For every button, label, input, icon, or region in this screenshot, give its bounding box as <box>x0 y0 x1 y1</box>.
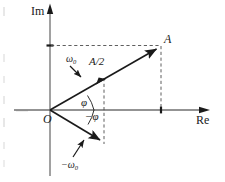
phasor-diagram-figure: Im Re O A A/2 ω0 −ω0 φ −φ <box>0 0 225 182</box>
omega-zero-symbol: ω <box>66 53 73 64</box>
half-vector-label: A/2 <box>89 56 104 67</box>
angle-phi-label: φ <box>81 97 87 108</box>
real-axis-label: Re <box>196 114 209 126</box>
omega-zero-subscript: 0 <box>73 58 76 65</box>
vector-a-label: A <box>164 33 171 45</box>
angle-arc-phi <box>88 96 95 111</box>
phasor-diagram-canvas <box>0 0 225 182</box>
minus-omega-zero-label: −ω0 <box>61 160 78 171</box>
omega-zero-label: ω0 <box>66 54 76 65</box>
minus-omega-zero-symbol: −ω <box>61 159 75 170</box>
scan-artifacts <box>3 7 28 167</box>
minus-omega-zero-subscript: 0 <box>75 164 78 171</box>
imaginary-axis-label: Im <box>31 5 44 17</box>
origin-label: O <box>43 113 52 125</box>
omega-zero-leader-arrow <box>70 66 81 77</box>
angle-minus-phi-label: −φ <box>85 111 99 122</box>
minus-omega-zero-leader-arrow <box>73 140 84 157</box>
imaginary-axis <box>47 4 54 177</box>
